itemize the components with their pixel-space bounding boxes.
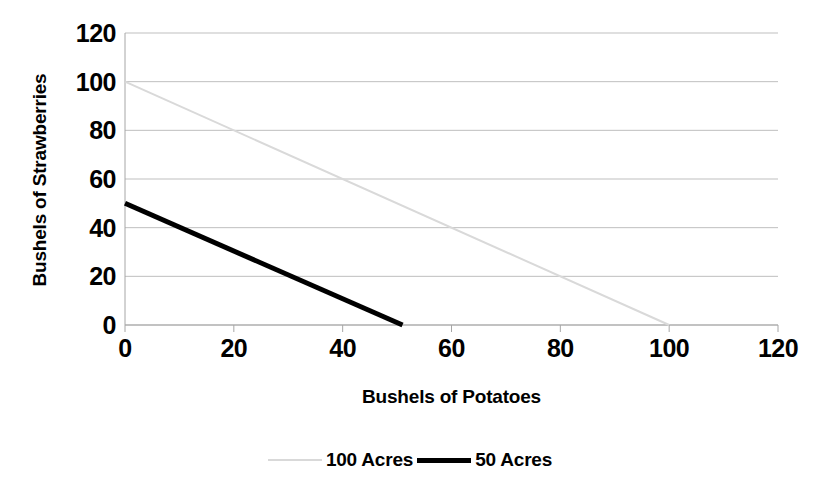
legend-label: 50 Acres (475, 449, 552, 471)
x-tick-label-60: 60 (438, 336, 465, 361)
series-line-50-acres (125, 203, 403, 325)
legend-line-swatch-icon (417, 458, 471, 463)
x-tick-label-120: 120 (758, 336, 798, 361)
x-axis-title: Bushels of Potatoes (125, 386, 778, 408)
x-tick-label-20: 20 (220, 336, 247, 361)
legend-label: 100 Acres (326, 449, 413, 471)
x-axis-ticks (125, 325, 778, 332)
legend-entry-100-acres[interactable]: 100 Acres (264, 449, 413, 471)
x-axis-tick-labels: 020406080100120 (0, 336, 816, 376)
line-chart: Bushels of Strawberries 020406080100120 … (0, 0, 816, 493)
series-line-100-acres (125, 82, 669, 325)
chart-legend: 100 Acres50 Acres (0, 440, 816, 480)
plot-area (0, 0, 816, 493)
legend-line-swatch-icon (268, 459, 322, 461)
x-tick-label-100: 100 (649, 336, 689, 361)
series-lines (125, 82, 669, 325)
legend-entry-50-acres[interactable]: 50 Acres (413, 449, 552, 471)
x-tick-label-80: 80 (547, 336, 574, 361)
x-tick-label-40: 40 (329, 336, 356, 361)
gridlines (125, 33, 778, 325)
x-tick-label-0: 0 (118, 336, 131, 361)
